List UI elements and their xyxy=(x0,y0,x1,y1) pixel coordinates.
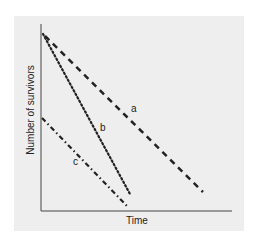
series-a-label: a xyxy=(131,103,137,114)
series-b-label: b xyxy=(100,122,106,133)
y-axis-label: Number of survivors xyxy=(25,65,36,154)
series-b-line xyxy=(43,34,130,194)
chart-plot xyxy=(0,0,257,242)
x-axis-label: Time xyxy=(126,215,148,226)
series-c-line xyxy=(42,118,127,206)
series-a-line xyxy=(45,36,203,192)
series-c-label: c xyxy=(73,156,78,167)
